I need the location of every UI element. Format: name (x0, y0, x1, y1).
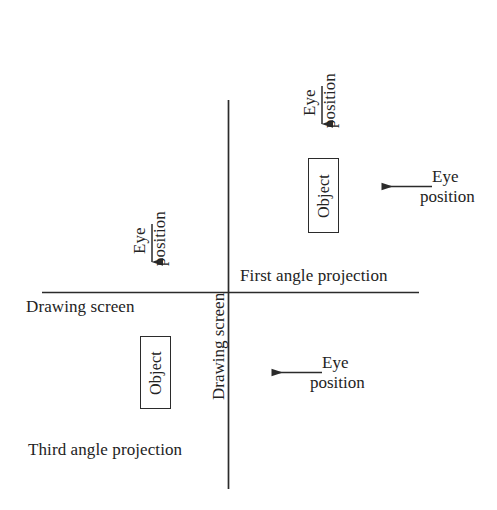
third-angle-projection-label: Third angle projection (28, 440, 182, 459)
eye-label-line-top: Eye (300, 73, 320, 128)
object-box-first-quadrant: Object (308, 158, 339, 233)
eye-label-line-bottom: position (320, 73, 340, 128)
eye-position-label-right: Eye position (420, 167, 475, 206)
vertical-drawing-screen-label: Drawing screen (209, 293, 228, 400)
horizontal-drawing-screen-label: Drawing screen (26, 297, 135, 316)
eye-position-label-upper-left: Eye position (130, 211, 169, 266)
axes-and-arrows (0, 0, 497, 510)
eye-position-label-lower-right: Eye position (310, 353, 365, 392)
projection-diagram: Eye position Object Eye position Eye pos… (0, 0, 497, 510)
eye-label-line-top: Eye (420, 167, 475, 187)
eye-label-line-bottom: position (310, 373, 365, 393)
object-box-label: Object (147, 351, 165, 395)
eye-label-line-top: Eye (310, 353, 365, 373)
eye-label-line-top: Eye (130, 211, 150, 266)
eye-label-line-bottom: position (420, 187, 475, 207)
object-box-third-quadrant: Object (140, 336, 171, 409)
first-angle-projection-label: First angle projection (240, 266, 388, 285)
eye-label-line-bottom: position (150, 211, 170, 266)
object-box-label: Object (315, 174, 333, 218)
eye-position-label-top: Eye position (300, 73, 339, 128)
